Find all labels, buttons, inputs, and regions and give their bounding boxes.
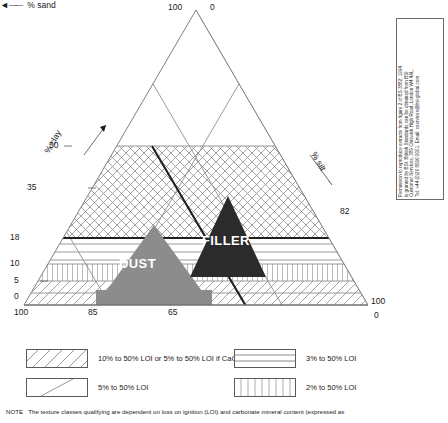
tick-silt-82: 82 [340,207,349,216]
tick-sand-85: 85 [88,308,97,317]
legend-swatch-diagonal-hatch-dense [26,349,88,368]
legend-swatch-0-art [27,350,87,367]
legend-item-1: 5% to 50% LOI [26,378,148,397]
tick-sand-100: 100 [14,308,28,317]
legend-swatch-1-art [27,379,87,396]
diagram-hatch-fill [0,10,390,305]
legend-label-2: 3% to 50% LOI [306,354,356,363]
tick-apex-left: 100 [168,3,182,12]
bsi-permission-line-4: Tel: +44 (0)20 8996 9001. Email: cservic… [415,21,421,197]
tick-sand-0: 0 [374,311,379,320]
tick-apex-right: 0 [210,3,215,12]
tick-clay-0: 0 [14,292,19,301]
tick-clay-10: 10 [10,259,19,268]
bsi-permission-box: Permission to reproduce extracts from fi… [396,18,444,200]
region-label-filler: FILLER [202,233,250,248]
legend-item-3: 2% to 50% LOI [234,378,356,397]
legend-swatch-3-art [235,379,295,396]
note-text: The texture classes qualifying are depen… [28,408,344,415]
clay-axis-arrow [84,125,106,155]
legend-swatch-horizontal-lines [234,349,296,368]
legend-item-2: 3% to 50% LOI [234,349,356,368]
tick-clay-35: 35 [27,183,36,192]
tick-silt-100: 100 [371,297,385,306]
legend-swatch-vertical-lines [234,378,296,397]
legend-swatch-diagonal-single [26,378,88,397]
region-label-dust: DUST [119,256,156,271]
note-prefix: NOTE [6,408,23,415]
legend-item-0: 10% to 50% LOI or 5% to 50% LOI if CaCO3… [26,349,265,368]
legend-swatch-2-art [235,350,295,367]
screenshot-root: 100 0 50 35 18 10 5 0 82 100 100 85 65 0… [0,0,448,423]
legend-label-1: 5% to 50% LOI [98,383,148,392]
legend: 10% to 50% LOI or 5% to 50% LOI if CaCO3… [0,345,448,400]
ternary-diagram: 100 0 50 35 18 10 5 0 82 100 100 85 65 0… [0,0,390,340]
ternary-diagram-svg [0,0,390,340]
bsi-permission-text: Permission to reproduce extracts from fi… [397,19,443,199]
legend-label-3: 2% to 50% LOI [306,383,356,392]
tick-clay-5: 5 [14,276,19,285]
tick-clay-18: 18 [10,233,19,242]
region-dust-skirt [96,290,212,305]
sand-arrow-line: —— [9,0,21,9]
tick-sand-65: 65 [168,308,177,317]
note-line: NOTEThe texture classes qualifying are d… [6,408,446,416]
